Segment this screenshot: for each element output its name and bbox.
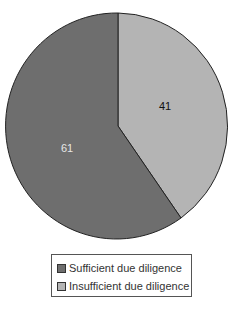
legend-item-insufficient: Insufficient due diligence [57,279,189,293]
slice-label-sufficient: 61 [61,142,73,154]
legend-swatch-sufficient [57,264,66,273]
pie-chart: 41 61 [0,0,236,250]
slice-label-insufficient: 41 [159,100,171,112]
legend: Sufficient due diligence Insufficient du… [51,254,192,297]
legend-swatch-insufficient [57,282,66,291]
legend-item-sufficient: Sufficient due diligence [57,261,182,275]
legend-label: Sufficient due diligence [69,262,182,274]
legend-label: Insufficient due diligence [69,280,189,292]
